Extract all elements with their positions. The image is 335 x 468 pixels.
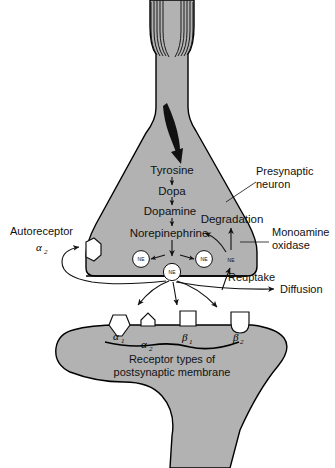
- vesicle-right-label: NE: [200, 256, 208, 262]
- receptor-alpha2-subscript: 2: [149, 345, 153, 353]
- pathway-step-tyrosine: Tyrosine: [150, 164, 193, 176]
- receptor-alpha1-subscript: 1: [121, 337, 125, 345]
- receptor-alpha1-greek: α: [113, 330, 119, 342]
- vesicle-reuptake-label: NE: [227, 257, 235, 263]
- adrenergic-synapse-figure: Tyrosine Dopa Dopamine Norepinephrine NE…: [0, 0, 335, 468]
- autoreceptor-subtype-subscript: 2: [44, 248, 48, 256]
- postsynaptic-caption-line2: postsynaptic membrane: [114, 366, 231, 378]
- receptor-beta2-greek: β: [232, 331, 239, 343]
- vesicle-right: NE: [196, 251, 213, 268]
- vesicle-left-label: NE: [137, 256, 145, 262]
- receptor-beta2-subscript: 2: [240, 338, 244, 346]
- diffusion-label: Diffusion: [280, 283, 323, 295]
- degradation-label: Degradation: [201, 213, 264, 225]
- monoamine-oxidase-label-line2: oxidase: [272, 239, 310, 251]
- vesicle-release-site: NE: [163, 263, 180, 280]
- monoamine-oxidase-label-line1: Monoamine: [272, 226, 329, 238]
- reuptake-label: Reuptake: [228, 271, 275, 283]
- receptor-beta1-greek: β: [181, 331, 188, 343]
- release-arrows: [138, 281, 217, 307]
- presynaptic-neuron-label-line1: Presynaptic: [256, 165, 314, 177]
- postsynaptic-cell-shape: [56, 311, 287, 468]
- autoreceptor-subtype-greek: α: [36, 241, 42, 253]
- diagram-canvas: Tyrosine Dopa Dopamine Norepinephrine NE…: [0, 0, 335, 468]
- pathway-step-dopamine: Dopamine: [144, 205, 196, 217]
- diffusion-arrow-group: [176, 282, 274, 289]
- vesicle-release-label: NE: [168, 269, 176, 275]
- autoreceptor-label: Autoreceptor: [10, 225, 73, 237]
- receptor-alpha2-greek: α: [141, 338, 147, 350]
- vesicle-left: NE: [133, 251, 150, 268]
- vesicle-reuptake: NE: [227, 257, 235, 263]
- pathway-step-dopa: Dopa: [158, 185, 186, 197]
- pathway-step-norepinephrine: Norepinephrine: [130, 227, 209, 239]
- receptor-beta1-subscript: 1: [189, 338, 193, 346]
- presynaptic-neuron-label-line2: neuron: [256, 178, 290, 190]
- postsynaptic-caption-line1: Receptor types of: [129, 353, 216, 365]
